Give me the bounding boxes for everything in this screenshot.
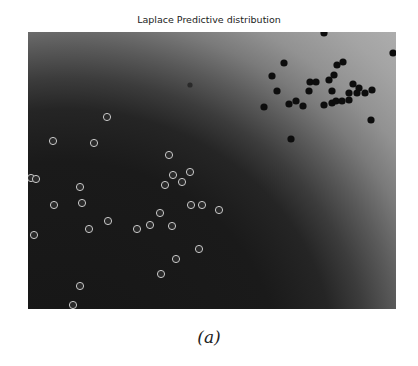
class-0-point xyxy=(168,222,175,229)
class-1-point xyxy=(280,59,287,66)
chart-title: Laplace Predictive distribution xyxy=(0,14,418,25)
plot-area xyxy=(28,32,396,309)
class-0-point xyxy=(172,255,179,262)
class-1-point xyxy=(339,58,346,65)
class-1-point xyxy=(389,49,396,56)
class-0-point xyxy=(165,151,172,158)
class-1-point xyxy=(299,102,306,109)
class-1-point xyxy=(285,100,292,107)
class-1-point xyxy=(353,89,360,96)
class-1-point xyxy=(349,80,356,87)
class-0-point xyxy=(157,270,164,277)
class-1-point xyxy=(320,101,327,108)
class-0-point xyxy=(187,201,194,208)
class-0-point xyxy=(178,178,185,185)
class-1-point xyxy=(345,89,352,96)
class-0-point xyxy=(169,171,176,178)
class-1-point xyxy=(287,135,294,142)
class-1-point xyxy=(338,97,345,104)
class-1-point xyxy=(187,82,192,87)
class-1-point xyxy=(273,87,280,94)
class-0-point xyxy=(32,175,39,182)
class-1-point xyxy=(345,96,352,103)
class-1-point xyxy=(305,87,312,94)
class-1-point xyxy=(320,32,327,37)
class-0-point xyxy=(195,245,202,252)
class-1-point xyxy=(368,86,375,93)
class-0-point xyxy=(50,201,57,208)
class-1-point xyxy=(330,71,337,78)
class-0-point xyxy=(49,137,56,144)
class-0-point xyxy=(186,168,193,175)
class-1-point xyxy=(312,78,319,85)
class-0-point xyxy=(156,209,163,216)
class-1-point xyxy=(361,89,368,96)
class-0-point xyxy=(103,113,110,120)
class-0-point xyxy=(90,139,97,146)
class-0-point xyxy=(30,231,37,238)
class-1-point xyxy=(260,103,267,110)
class-0-point xyxy=(133,225,140,232)
class-0-point xyxy=(78,199,85,206)
class-1-point xyxy=(292,97,299,104)
class-0-point xyxy=(215,206,222,213)
class-0-point xyxy=(104,217,111,224)
class-0-point xyxy=(198,201,205,208)
class-0-point xyxy=(161,181,168,188)
figure-caption: (a) xyxy=(0,327,418,347)
class-1-point xyxy=(268,72,275,79)
class-0-point xyxy=(76,282,83,289)
class-1-point xyxy=(328,87,335,94)
class-0-point xyxy=(85,225,92,232)
class-0-point xyxy=(146,221,153,228)
scatter-layer xyxy=(28,32,396,309)
class-1-point xyxy=(367,116,374,123)
class-0-point xyxy=(69,301,76,308)
class-0-point xyxy=(76,183,83,190)
